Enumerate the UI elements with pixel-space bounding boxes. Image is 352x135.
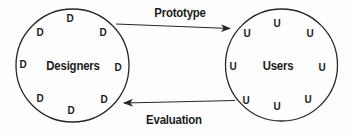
designer-member: D <box>114 62 121 73</box>
prototype-arrow-line <box>116 24 230 29</box>
designer-member: D <box>36 93 43 104</box>
user-member: U <box>273 101 280 112</box>
designer-member: D <box>100 94 107 105</box>
user-member: U <box>242 95 249 106</box>
designer-member: D <box>19 59 26 70</box>
designer-member: D <box>66 13 73 24</box>
designer-member: D <box>99 27 106 38</box>
user-member: U <box>229 61 236 72</box>
designer-member: D <box>36 27 43 38</box>
evaluation-arrow-label: Evaluation <box>146 114 202 126</box>
user-member: U <box>304 94 311 105</box>
users-circle-label: Users <box>263 60 294 72</box>
designers-circle-label: Designers <box>46 60 99 72</box>
diagram-canvas: Prototype Evaluation Designers Users D D… <box>0 0 352 135</box>
user-member: U <box>273 18 280 29</box>
evaluation-arrow-line <box>124 101 235 104</box>
user-member: U <box>243 28 250 39</box>
prototype-arrow-label: Prototype <box>154 7 206 19</box>
user-member: U <box>306 28 313 39</box>
user-member: U <box>318 62 325 73</box>
designer-member: D <box>67 105 74 116</box>
